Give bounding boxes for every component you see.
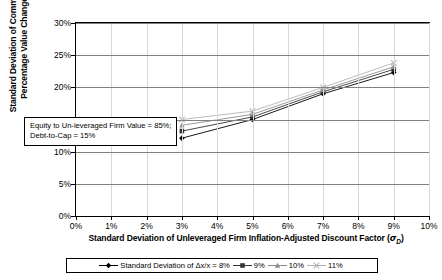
y-axis-tick-label: 0% (43, 211, 71, 221)
x-axis-tick-label: 4% (202, 221, 232, 231)
x-axis-tick-label: 7% (308, 221, 338, 231)
chart-container: Standard Deviation of Common Equity Perc… (0, 0, 442, 280)
legend-item: Standard Deviation of Δx/x = 8% (99, 261, 232, 270)
annotation-box: Equity to Un-leveraged Firm Value = 85%;… (24, 117, 177, 146)
legend-label: 11% (328, 261, 345, 270)
annotation-line-1: Equity to Un-leveraged Firm Value = 85%; (30, 121, 171, 131)
x-axis-tick (217, 216, 218, 220)
y-axis-tick (71, 152, 76, 153)
x-axis-tick (358, 216, 359, 220)
x-axis-tick-label: 3% (167, 221, 197, 231)
legend-key-icon (307, 261, 326, 270)
y-axis-title-line2-prefix: Percentage Value Changes ( (19, 0, 29, 99)
x-axis-tick (288, 216, 289, 220)
legend-item: 9% (233, 261, 267, 270)
y-axis-tick (71, 55, 76, 56)
x-axis-tick-label: 1% (96, 221, 126, 231)
horizontal-gridline (76, 87, 429, 88)
x-axis-tick (182, 216, 183, 220)
x-axis-tick (323, 216, 324, 220)
x-axis-tick (394, 216, 395, 220)
x-axis-tick-label: 6% (273, 221, 303, 231)
legend-item: 11% (307, 261, 345, 270)
x-axis-tick-label: 10% (414, 221, 442, 231)
x-axis-title-suffix: ) (401, 233, 404, 243)
annotation-line-2: Debt-to-Cap = 15% (30, 131, 171, 141)
y-axis-tick-label: 10% (43, 147, 71, 157)
x-axis-title-prefix: Standard Deviation of Unleveraged Firm I… (88, 233, 389, 243)
chart-legend: Standard Deviation of Δx/x = 8%9%10%11% (66, 258, 378, 273)
y-axis-title-line1: Standard Deviation of Common Equity (8, 0, 18, 112)
y-axis-tick (71, 184, 76, 185)
legend-key-icon (268, 261, 287, 270)
horizontal-gridline (76, 55, 429, 56)
x-axis-tick (429, 216, 430, 220)
legend-label: 9% (254, 261, 267, 270)
x-axis-tick-label: 5% (238, 221, 268, 231)
x-axis-tick-label: 9% (379, 221, 409, 231)
legend-label: Standard Deviation of Δx/x = 8% (120, 261, 232, 270)
x-axis-tick-label: 8% (343, 221, 373, 231)
x-axis-tick (253, 216, 254, 220)
legend-label: 10% (289, 261, 306, 270)
legend-key-icon (99, 261, 118, 270)
y-axis-tick-label: 20% (43, 82, 71, 92)
x-axis-title: Standard Deviation of Unleveraged Firm I… (52, 233, 440, 245)
x-axis-tick-label: 0% (61, 221, 91, 231)
y-axis-tick-label: 30% (43, 18, 71, 28)
horizontal-gridline (76, 23, 429, 24)
y-axis-tick-label: 25% (43, 50, 71, 60)
y-axis-tick (71, 23, 76, 24)
y-axis-tick-label: 5% (43, 179, 71, 189)
horizontal-gridline (76, 152, 429, 153)
x-axis-tick (76, 216, 77, 220)
x-axis-tick (147, 216, 148, 220)
legend-key-icon (233, 261, 252, 270)
x-axis-tick (111, 216, 112, 220)
legend-item: 10% (268, 261, 306, 270)
vertical-gridline (429, 23, 430, 216)
y-axis-tick (71, 87, 76, 88)
horizontal-gridline (76, 184, 429, 185)
x-axis-tick-label: 2% (132, 221, 162, 231)
